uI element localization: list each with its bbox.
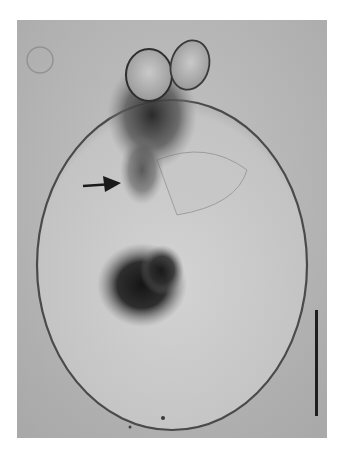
vesicle-left xyxy=(126,49,172,101)
scale-bar xyxy=(315,310,318,416)
micrograph-image xyxy=(17,20,327,438)
